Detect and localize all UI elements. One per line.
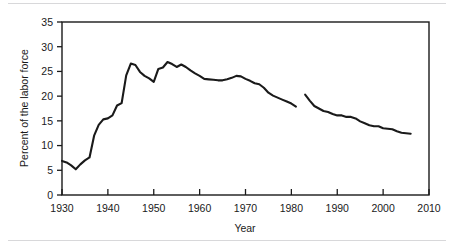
y-tick-label-5: 5 [47,164,53,176]
x-axis-ticks [62,189,429,195]
x-tick-label-2010: 2010 [417,202,441,214]
line-chart-plot: 05101520253035 1930194019501960197019801… [0,0,454,250]
axis-frame [62,22,429,195]
x-tick-label-1930: 1930 [50,202,74,214]
y-axis-title: Percent of the labor force [18,49,30,167]
x-tick-label-1960: 1960 [188,202,212,214]
x-tick-label-1950: 1950 [142,202,166,214]
y-tick-label-30: 30 [41,41,53,53]
y-tick-label-20: 20 [41,90,53,102]
x-axis-title: Year [234,222,256,234]
x-tick-label-1970: 1970 [234,202,258,214]
y-axis-tick-labels: 05101520253035 [41,16,53,201]
chart-figure: 05101520253035 1930194019501960197019801… [0,0,454,250]
y-tick-label-10: 10 [41,139,53,151]
x-tick-label-2000: 2000 [371,202,395,214]
y-axis-ticks [57,22,62,195]
x-tick-label-1990: 1990 [326,202,350,214]
y-tick-label-35: 35 [41,16,53,28]
x-tick-label-1940: 1940 [96,202,120,214]
data-line-segment-1 [62,62,296,169]
y-tick-label-0: 0 [47,189,53,201]
y-tick-label-15: 15 [41,115,53,127]
x-axis-tick-labels: 193019401950196019701980199020002010 [50,202,441,214]
x-tick-label-1980: 1980 [280,202,304,214]
y-tick-label-25: 25 [41,65,53,77]
data-line-segment-2 [305,95,411,134]
data-series-lines [62,62,411,169]
